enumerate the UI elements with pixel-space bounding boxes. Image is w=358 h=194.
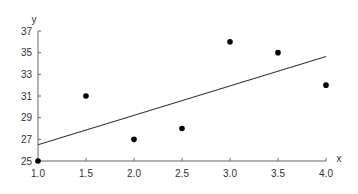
x-tick-label: 3.0 — [223, 168, 237, 179]
x-tick-label: 3.5 — [271, 168, 285, 179]
y-tick-label: 25 — [21, 156, 33, 167]
y-tick-label: 27 — [21, 134, 33, 145]
x-tick-label: 1.5 — [79, 168, 93, 179]
x-tick-label: 1.0 — [31, 168, 45, 179]
trend-line — [38, 57, 326, 145]
y-tick-label: 33 — [21, 69, 33, 80]
y-axis-label: y — [32, 14, 37, 25]
data-point — [83, 93, 89, 99]
x-tick-label: 2.5 — [175, 168, 189, 179]
data-point — [131, 137, 137, 143]
data-point — [227, 39, 233, 45]
y-tick-label: 29 — [21, 112, 33, 123]
x-axis-label: x — [337, 153, 342, 164]
data-point — [323, 82, 329, 88]
y-tick-label: 37 — [21, 26, 33, 37]
data-points — [35, 39, 329, 164]
data-point — [275, 50, 281, 56]
data-point — [35, 158, 41, 164]
y-tick-label: 31 — [21, 91, 33, 102]
x-tick-label: 2.0 — [127, 168, 141, 179]
data-point — [179, 126, 185, 132]
y-tick-label: 35 — [21, 47, 33, 58]
regression-line — [38, 57, 326, 145]
scatter-chart: 1.01.52.02.53.03.54.025272931333537 y x — [0, 0, 358, 194]
x-tick-label: 4.0 — [319, 168, 333, 179]
